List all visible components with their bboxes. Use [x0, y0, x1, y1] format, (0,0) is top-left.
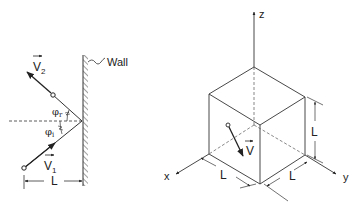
cube-bottom-edge-right: [260, 155, 305, 184]
particle-icon: [226, 123, 230, 127]
incoming-particle-icon: [22, 166, 26, 170]
diagram-canvas: Wall V2 V1 φr φi L: [0, 0, 357, 212]
outgoing-particle-icon: [51, 93, 55, 97]
svg-text:V2: V2: [33, 60, 46, 76]
x-edge-dim-up: [201, 158, 216, 166]
y-edge-label: L: [289, 169, 296, 183]
v2-label: V2: [33, 56, 46, 76]
y-edge-ext: [264, 184, 288, 201]
cube-figure: z x y V L L: [164, 8, 349, 201]
y-axis-label: y: [343, 171, 349, 183]
y-edge-dim-right: [294, 162, 307, 170]
incidence-angle-tick: [58, 126, 63, 130]
wall-label: Wall: [107, 56, 128, 68]
velocity-arrow: [229, 127, 243, 156]
reflection-angle-label: φr: [52, 106, 63, 119]
wall-leader-line: [88, 58, 105, 64]
velocity-label: V: [246, 144, 254, 158]
x-axis: [176, 154, 209, 174]
outgoing-velocity-arrow: [27, 72, 51, 93]
x-axis-label: x: [164, 170, 170, 182]
wall-reflection-figure: Wall V2 V1 φr φi L: [9, 55, 128, 189]
reflection-angle-tick: [65, 112, 70, 115]
y-edge-dim-left: [267, 178, 280, 186]
cube-top-face: [209, 67, 305, 125]
reflection-angle-arc: [67, 110, 69, 121]
cube-hidden-right: [254, 125, 305, 155]
x-edge-label: L: [220, 168, 227, 182]
incidence-angle-label: φi: [45, 126, 55, 139]
v1-label: V1: [44, 155, 57, 175]
x-edge-dim-down: [236, 177, 250, 186]
height-label: L: [311, 125, 318, 139]
wall-hatching: [83, 55, 88, 186]
z-axis-label: z: [259, 8, 265, 20]
cube-bottom-edge-left: [209, 154, 260, 184]
y-axis: [305, 155, 336, 174]
svg-text:V1: V1: [44, 159, 57, 175]
distance-label: L: [51, 174, 58, 188]
